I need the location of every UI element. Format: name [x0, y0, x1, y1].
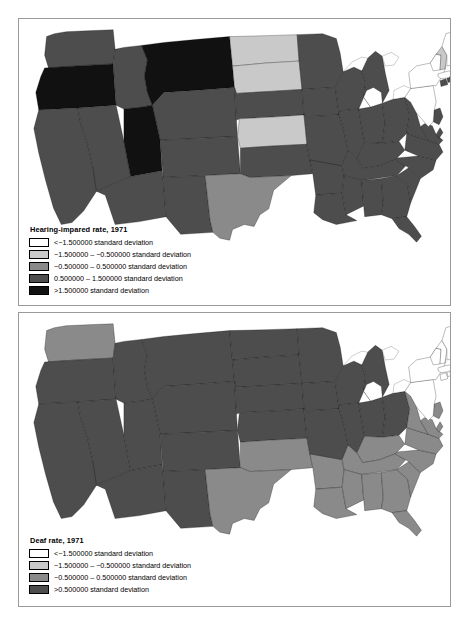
legend-label: −1.500000 – −0.500000 standard deviation	[54, 562, 191, 569]
state-wy	[152, 88, 237, 141]
legend-label: 0.500000 – 1.500000 standard deviation	[54, 275, 183, 282]
legend-item: >0.500000 standard deviation	[29, 584, 191, 595]
legend-item: <−1.500000 standard deviation	[29, 548, 191, 559]
state-ct	[440, 79, 448, 87]
state-al	[362, 473, 384, 511]
legend-label: −0.500000 – 0.500000 standard deviation	[54, 574, 187, 581]
legend-swatch	[29, 573, 49, 582]
legend-item: −1.500000 – −0.500000 standard deviation	[29, 560, 191, 571]
state-sd	[233, 61, 302, 93]
state-co	[160, 136, 240, 177]
state-ms	[342, 470, 364, 509]
state-wa	[45, 30, 115, 68]
legend-label: −1.500000 – −0.500000 standard deviation	[54, 251, 191, 258]
legend-item: −0.500000 – 0.500000 standard deviation	[29, 572, 191, 583]
legend-label: −0.500000 – 0.500000 standard deviation	[54, 263, 187, 270]
state-nj	[433, 402, 443, 419]
figure-root: Hearing-impared rate, 1971 <−1.500000 st…	[0, 0, 471, 625]
legend-swatch	[29, 262, 49, 271]
panel-deaf: Deaf rate, 1971 <−1.500000 standard devi…	[18, 312, 451, 607]
legend-deaf: Deaf rate, 1971 <−1.500000 standard devi…	[29, 537, 191, 596]
state-oh	[382, 391, 409, 437]
state-co	[160, 430, 240, 471]
state-nm	[163, 470, 213, 529]
state-sd	[233, 355, 302, 387]
legend-title-hearing-impaired: Hearing-impared rate, 1971	[30, 226, 191, 233]
state-fl	[392, 511, 421, 536]
state-or	[36, 358, 116, 404]
legend-label: >1.500000 standard deviation	[54, 287, 149, 294]
state-ar	[310, 454, 344, 489]
legend-swatch	[29, 561, 49, 570]
state-ia	[302, 88, 339, 117]
legend-label: <−1.500000 standard deviation	[54, 239, 153, 246]
legend-item: −1.500000 – −0.500000 standard deviation	[29, 249, 191, 260]
state-ks	[237, 409, 306, 442]
great-lake-3	[382, 346, 399, 360]
us-choropleth-svg-bottom	[19, 313, 450, 543]
legend-label: <−1.500000 standard deviation	[54, 550, 153, 557]
state-ct	[440, 373, 448, 381]
state-wa	[45, 324, 115, 362]
state-mn	[297, 34, 343, 90]
state-oh	[382, 97, 409, 143]
state-tx	[205, 174, 291, 241]
state-ar	[310, 160, 344, 195]
legend-item: 0.500000 – 1.500000 standard deviation	[29, 273, 191, 284]
state-nj	[433, 108, 443, 125]
legend-title-deaf: Deaf rate, 1971	[30, 537, 191, 544]
legend-swatch	[29, 274, 49, 283]
legend-swatch	[29, 286, 49, 295]
state-ia	[302, 382, 339, 411]
state-nd	[230, 35, 299, 66]
legend-swatch	[29, 250, 49, 259]
state-tx	[205, 468, 291, 535]
state-ks	[237, 115, 306, 148]
state-al	[362, 179, 384, 217]
legend-swatch	[29, 549, 49, 558]
state-wy	[152, 382, 237, 435]
state-ms	[342, 176, 364, 215]
great-lake-3	[382, 52, 399, 66]
state-ok	[240, 144, 312, 177]
legend-swatch	[29, 585, 49, 594]
state-ok	[240, 438, 312, 471]
legend-item: −0.500000 – 0.500000 standard deviation	[29, 261, 191, 272]
legend-item: <−1.500000 standard deviation	[29, 237, 191, 248]
legend-item: >1.500000 standard deviation	[29, 285, 191, 296]
state-or	[36, 64, 116, 110]
legend-label: >0.500000 standard deviation	[54, 586, 149, 593]
legend-swatch	[29, 238, 49, 247]
state-fl	[392, 217, 421, 242]
panel-hearing-impaired: Hearing-impared rate, 1971 <−1.500000 st…	[18, 18, 451, 306]
us-choropleth-svg-top	[19, 19, 450, 249]
state-mn	[297, 328, 343, 384]
state-nd	[230, 329, 299, 360]
legend-hearing-impaired: Hearing-impared rate, 1971 <−1.500000 st…	[29, 226, 191, 297]
